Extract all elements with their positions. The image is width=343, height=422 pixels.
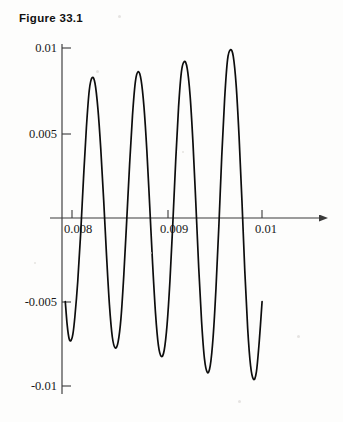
x-tick-label-2: 0.01 [255,222,277,236]
paper-speck [118,15,121,18]
plot-area: 0.01 0.005 -0.005 -0.01 0.008 0.009 0.01 [0,0,343,422]
paper-speck [34,262,36,264]
paper-speck [238,400,241,403]
x-axis-ticks [72,210,262,218]
y-tick-label-2: -0.005 [25,295,57,309]
x-tick-label-1: 0.009 [160,222,188,236]
y-tick-label-1: 0.005 [29,127,57,141]
paper-speck [150,252,152,254]
paper-speck [182,151,184,153]
waveform-curve [65,50,262,380]
x-tick-label-0: 0.008 [64,222,92,236]
y-tick-label-3: -0.01 [31,379,57,393]
y-tick-label-0: 0.01 [35,41,57,55]
paper-speck [96,70,99,73]
paper-speck [297,335,300,338]
figure-container: Figure 33.1 0.01 0.005 -0.005 -0.01 [0,0,343,422]
y-axis-ticks [62,48,71,386]
